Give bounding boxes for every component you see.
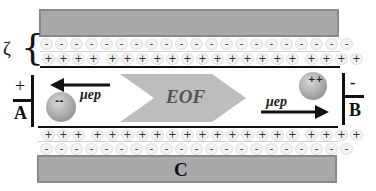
cation-charge-label: ++ <box>308 74 323 84</box>
negative-ion: - <box>265 143 278 155</box>
negative-ion: - <box>250 143 263 155</box>
top-positive-ion-row: +++++++++++++++++++++ <box>42 53 365 65</box>
positive-ion: + <box>286 53 299 65</box>
negative-ion: - <box>115 143 128 155</box>
left-electrode-polarity: + <box>15 76 25 97</box>
cation-mobility-arrow <box>261 105 329 119</box>
negative-ion: - <box>190 38 203 50</box>
bottom-shear-plane-line <box>38 126 338 128</box>
negative-ion: - <box>295 38 308 50</box>
bottom-layer-divider <box>38 141 338 142</box>
negative-ion: - <box>235 38 248 50</box>
negative-ion: - <box>310 38 323 50</box>
right-electrode-label: B <box>349 100 361 121</box>
negative-ion: - <box>325 38 338 50</box>
negative-ion: - <box>175 38 188 50</box>
positive-ion: + <box>166 53 179 65</box>
positive-ion: + <box>106 53 119 65</box>
negative-ion: - <box>265 38 278 50</box>
negative-ion: - <box>70 38 83 50</box>
zeta-label: ζ <box>3 38 11 60</box>
positive-ion: + <box>320 129 333 141</box>
positive-ion: + <box>181 129 194 141</box>
positive-ion: + <box>305 129 318 141</box>
positive-ion: + <box>286 129 299 141</box>
top-negative-ion-row: --------------------- <box>40 38 355 50</box>
negative-ion: - <box>40 38 53 50</box>
positive-ion: + <box>136 53 149 65</box>
negative-ion: - <box>205 143 218 155</box>
negative-ion: - <box>160 143 173 155</box>
positive-ion: + <box>151 129 164 141</box>
bottom-negative-ion-row: --------------------- <box>40 143 355 155</box>
positive-ion: + <box>91 129 104 141</box>
positive-ion: + <box>226 129 239 141</box>
top-capillary-wall <box>39 9 339 37</box>
positive-ion: + <box>196 53 209 65</box>
positive-ion: + <box>320 53 333 65</box>
positive-ion: + <box>42 129 55 141</box>
positive-ion: + <box>121 129 134 141</box>
negative-ion: - <box>100 143 113 155</box>
positive-ion: + <box>196 129 209 141</box>
positive-ion: + <box>271 129 284 141</box>
positive-ion: + <box>72 53 85 65</box>
negative-ion: - <box>280 143 293 155</box>
negative-ion: - <box>295 143 308 155</box>
negative-ion: - <box>40 143 53 155</box>
positive-ion: + <box>57 53 70 65</box>
positive-ion: + <box>211 53 224 65</box>
positive-ion: + <box>121 53 134 65</box>
negative-ion: - <box>130 143 143 155</box>
positive-ion: + <box>166 129 179 141</box>
negative-ion: - <box>70 143 83 155</box>
positive-ion: + <box>136 129 149 141</box>
negative-ion: - <box>55 38 68 50</box>
negative-ion: - <box>340 38 353 50</box>
bottom-wall-label: C <box>174 159 188 181</box>
left-electrode-label: A <box>14 103 27 124</box>
positive-ion: + <box>241 53 254 65</box>
positive-ion: + <box>350 53 363 65</box>
negative-ion: - <box>280 38 293 50</box>
right-electrode-polarity: - <box>350 74 355 92</box>
positive-ion: + <box>151 53 164 65</box>
negative-ion: - <box>220 38 233 50</box>
right-electrode: - B <box>338 70 376 130</box>
electrode-bar-horizontal <box>344 95 364 98</box>
positive-ion: + <box>335 129 348 141</box>
positive-ion: + <box>211 129 224 141</box>
negative-ion: - <box>145 143 158 155</box>
bottom-positive-ion-row: +++++++++++++++++++++ <box>42 129 365 141</box>
negative-ion: - <box>310 143 323 155</box>
positive-ion: + <box>181 53 194 65</box>
negative-ion: - <box>55 143 68 155</box>
positive-ion: + <box>305 53 318 65</box>
negative-ion: - <box>160 38 173 50</box>
eof-label: EOF <box>166 86 205 108</box>
negative-ion: - <box>115 38 128 50</box>
positive-ion: + <box>256 53 269 65</box>
top-layer-divider <box>40 51 340 52</box>
negative-ion: - <box>325 143 338 155</box>
electrode-bar-horizontal <box>13 99 33 102</box>
negative-ion: - <box>190 143 203 155</box>
top-shear-plane-line <box>40 66 340 68</box>
negative-ion: - <box>220 143 233 155</box>
anion-charge-label: -- <box>55 95 63 106</box>
positive-ion: + <box>72 129 85 141</box>
negative-ion: - <box>205 38 218 50</box>
negative-ion: - <box>85 143 98 155</box>
negative-ion: - <box>340 143 353 155</box>
positive-ion: + <box>57 129 70 141</box>
electrode-bar-vertical <box>342 73 345 125</box>
positive-ion: + <box>87 53 100 65</box>
negative-ion: - <box>235 143 248 155</box>
negative-ion: - <box>250 38 263 50</box>
positive-ion: + <box>226 53 239 65</box>
positive-ion: + <box>350 129 363 141</box>
negative-ion: - <box>100 38 113 50</box>
positive-ion: + <box>106 129 119 141</box>
positive-ion: + <box>256 129 269 141</box>
positive-ion: + <box>241 129 254 141</box>
